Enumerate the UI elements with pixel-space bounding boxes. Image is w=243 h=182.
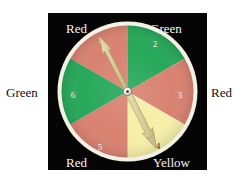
sector-number-2: 2: [153, 39, 158, 49]
sector-number-6: 6: [71, 90, 76, 100]
wheel-label-right: Red: [211, 86, 232, 99]
sector-number-4: 4: [156, 141, 161, 151]
wheel-svg[interactable]: 1 2 3 4 5 6: [57, 21, 198, 162]
wheel-center-pin: [126, 90, 129, 93]
spinner-figure: Red Green Green Red Red Yellow: [0, 0, 243, 182]
wheel-label-left: Green: [6, 86, 38, 99]
sector-number-3: 3: [178, 90, 183, 100]
sector-number-5: 5: [98, 142, 103, 152]
spinner-wheel[interactable]: 1 2 3 4 5 6: [57, 21, 198, 162]
